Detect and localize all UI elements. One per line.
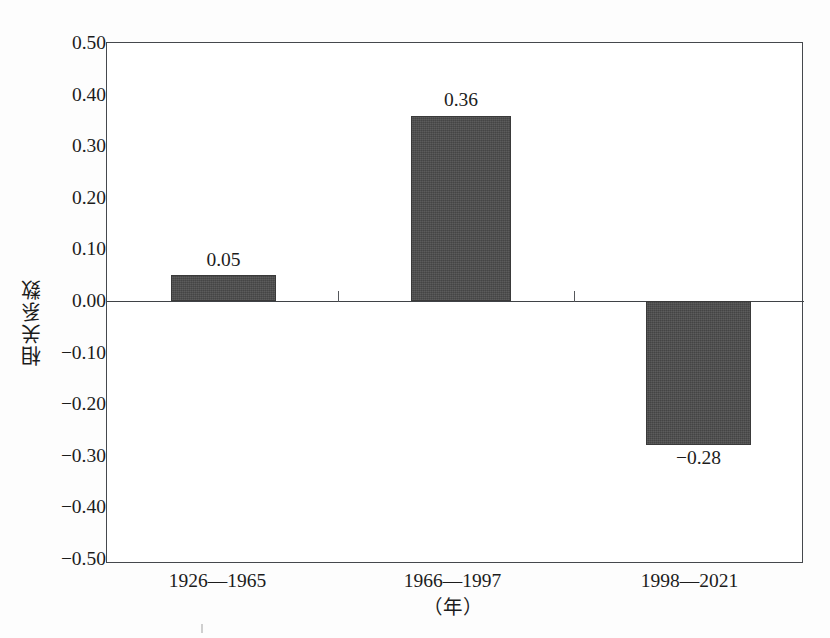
plot-area: 0.05 0.36 −0.28 (106, 42, 803, 563)
y-tick-label-6: −0.10 (34, 343, 106, 363)
x-axis-title: （年） (345, 597, 560, 619)
bar-1998-2021 (646, 301, 751, 445)
y-tick-label-0: 0.50 (34, 33, 106, 53)
bar-value-label-1998-2021: −0.28 (636, 447, 761, 469)
x-tick-label-1966-1997: 1966—1997 (345, 570, 560, 592)
bar-value-label-1926-1965: 0.05 (171, 249, 276, 271)
x-tick-label-1998-2021: 1998—2021 (582, 570, 797, 592)
y-tick-label-7: −0.20 (34, 394, 106, 414)
bar-1966-1997 (411, 116, 511, 301)
x-tick-label-1926-1965: 1926—1965 (110, 570, 325, 592)
category-separator-tick-2 (574, 291, 575, 302)
bar-value-label-1966-1997: 0.36 (401, 89, 521, 111)
y-axis-tick-labels: 0.50 0.40 0.30 0.20 0.10 0.00 −0.10 −0.2… (26, 42, 106, 563)
y-tick-label-10: −0.50 (34, 549, 106, 569)
y-tick-label-8: −0.30 (34, 446, 106, 466)
y-tick-label-2: 0.30 (34, 136, 106, 156)
category-separator-tick-1 (338, 291, 339, 302)
scan-artifact-speck (201, 624, 203, 633)
y-tick-label-9: −0.40 (34, 497, 106, 517)
bar-chart-figure: 相关系数 0.50 0.40 0.30 0.20 0.10 0.00 −0.10… (0, 0, 830, 638)
bar-1926-1965 (171, 275, 276, 301)
y-tick-label-5: 0.00 (34, 291, 106, 311)
y-tick-label-4: 0.10 (34, 239, 106, 259)
y-tick-label-1: 0.40 (34, 85, 106, 105)
y-tick-label-3: 0.20 (34, 188, 106, 208)
